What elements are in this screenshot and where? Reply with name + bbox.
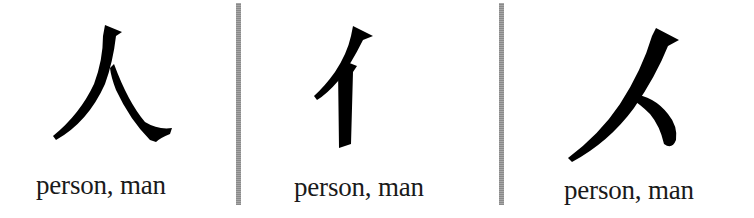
panel-label: person, man bbox=[564, 175, 694, 206]
stroke-right-falling bbox=[110, 64, 172, 142]
glyph-ren-standalone bbox=[50, 22, 180, 147]
panel-top-radical: person, man bbox=[504, 0, 754, 218]
stroke-left-falling bbox=[568, 28, 679, 162]
panel-label: person, man bbox=[294, 172, 424, 203]
panel-standalone: person, man bbox=[0, 0, 236, 218]
stroke-left-falling bbox=[53, 25, 122, 140]
stroke-dot bbox=[630, 94, 676, 146]
panel-left-radical: person, man bbox=[241, 0, 499, 218]
stroke-vertical bbox=[338, 62, 357, 148]
glyph-ren-left-radical bbox=[311, 24, 381, 149]
glyph-ren-top-radical bbox=[564, 26, 694, 166]
panel-label: person, man bbox=[36, 170, 166, 201]
